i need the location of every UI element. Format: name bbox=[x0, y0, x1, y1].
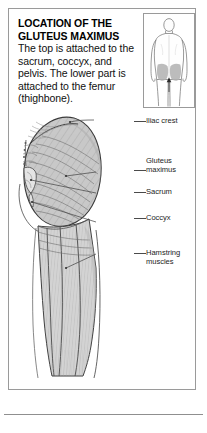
body-thumbnail bbox=[143, 13, 195, 108]
gluteus-maximus-illustration bbox=[0, 100, 186, 380]
gluteus-maximus-anatomy bbox=[0, 100, 186, 380]
leader-gluteus-maximus bbox=[134, 170, 146, 171]
leader-hamstring bbox=[134, 253, 146, 254]
caption-block: LOCATION OF THE GLUTEUS MAXIMUS The top … bbox=[18, 17, 142, 105]
caption-heading-line1: LOCATION OF THE bbox=[18, 17, 142, 30]
caption-heading-line2: GLUTEUS MAXIMUS bbox=[18, 30, 142, 43]
leader-sacrum bbox=[134, 192, 146, 193]
leader-iliac-crest bbox=[134, 121, 146, 122]
caption-body: The top is attached to the sacrum, coccy… bbox=[18, 42, 142, 105]
label-gluteus-maximus: Gluteus maximus bbox=[146, 156, 176, 174]
label-iliac-crest: Iliac crest bbox=[146, 116, 178, 125]
label-sacrum: Sacrum bbox=[146, 187, 172, 196]
label-hamstring-muscles: Hamstring muscles bbox=[146, 248, 180, 266]
leader-coccyx bbox=[134, 218, 146, 219]
label-coccyx: Coccyx bbox=[146, 213, 171, 222]
lower-leg-segment bbox=[48, 350, 92, 380]
bottom-divider bbox=[4, 414, 203, 415]
posterior-body-diagram bbox=[144, 14, 194, 107]
